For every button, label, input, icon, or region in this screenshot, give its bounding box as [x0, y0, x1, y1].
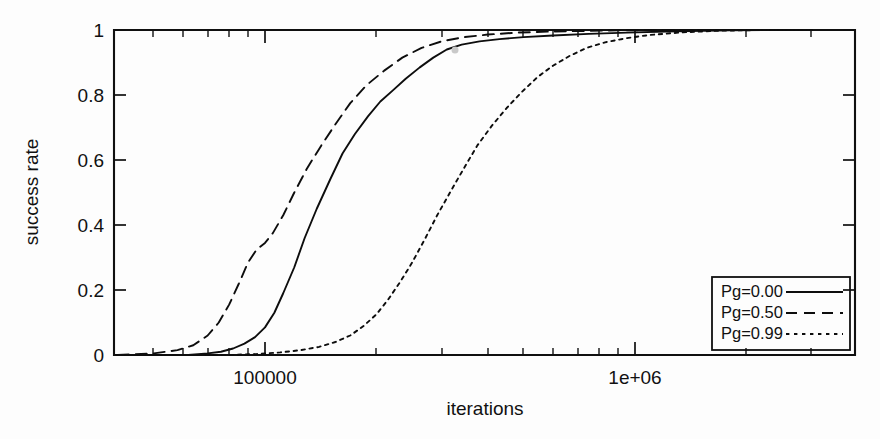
legend: Pg=0.00 Pg=0.50 Pg=0.99 [712, 277, 850, 350]
data-series-group [118, 30, 812, 355]
y-tick-label-0: 0 [93, 345, 104, 366]
y-tick-labels: 1 0.8 0.6 0.4 0.2 0 [78, 20, 105, 366]
y-axis-title: success rate [21, 139, 42, 246]
x-tick-label-1e06: 1e+06 [608, 367, 661, 388]
y-tick-label-1: 1 [93, 20, 104, 41]
y-tick-label-06: 0.6 [78, 150, 104, 171]
y-tick-label-04: 0.4 [78, 215, 105, 236]
legend-label-2: Pg=0.99 [721, 324, 783, 342]
chart-figure: 1 0.8 0.6 0.4 0.2 0 100000 1e+06 iterati… [0, 0, 880, 439]
x-tick-label-100000: 100000 [233, 367, 296, 388]
series-line-pg-000 [118, 30, 812, 355]
legend-label-1: Pg=0.50 [721, 303, 783, 321]
plot-canvas: 1 0.8 0.6 0.4 0.2 0 100000 1e+06 iterati… [0, 0, 880, 439]
scan-speck [452, 47, 459, 54]
y-tick-label-08: 0.8 [78, 85, 104, 106]
series-line-pg-099 [118, 30, 812, 355]
y-tick-label-02: 0.2 [78, 280, 104, 301]
x-axis-title: iterations [446, 398, 523, 419]
x-tick-labels: 100000 1e+06 [233, 367, 661, 388]
series-line-pg-050 [118, 30, 812, 355]
legend-label-0: Pg=0.00 [721, 282, 783, 300]
